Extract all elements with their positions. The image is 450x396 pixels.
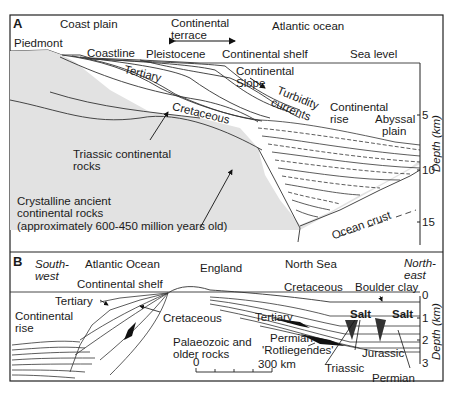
label-sea-level: Sea level — [350, 48, 397, 60]
label-cretaceous-right: Cretaceous — [284, 281, 343, 293]
label-boulder-clay: Boulder clay — [355, 281, 418, 293]
fault-arrow-glyph — [124, 322, 136, 340]
label-pleistocene: Pleistocene — [146, 48, 205, 60]
label-palaeozoic-2: older rocks — [173, 348, 229, 360]
label-continental-rise-b-2: rise — [15, 322, 34, 334]
depth-tick-15: 15 — [422, 216, 435, 228]
label-continental-slope-2: Slope — [236, 77, 265, 89]
depth-tick-10: 10 — [422, 164, 435, 176]
depth-tick-b-0: 0 — [422, 289, 428, 301]
label-northeast-2: east — [404, 269, 426, 281]
scale-bar-start: 0 — [193, 356, 199, 368]
depth-tick-5: 5 — [422, 109, 428, 121]
label-palaeozoic: Palaeozoic and — [173, 336, 252, 348]
label-abyssal-plain-2: plain — [382, 125, 406, 137]
label-continental-rise-b: Continental — [15, 310, 73, 322]
depth-axis-b-title: Depth (km) — [430, 303, 442, 360]
scale-bar-end: 300 km — [258, 358, 296, 370]
label-abyssal-plain: Abyssal — [375, 113, 415, 125]
label-jurassic: Jurassic — [362, 347, 404, 359]
label-permian-b: Permian — [372, 372, 415, 384]
label-continental-rise-2: rise — [330, 113, 349, 125]
label-continental-shelf-b: Continental shelf — [77, 278, 163, 290]
depth-tick-b-1: 1 — [422, 312, 428, 324]
label-tertiary-right: Tertiary — [255, 311, 293, 323]
label-northeast: North- — [404, 257, 436, 269]
label-atlantic-ocean-b: Atlantic Ocean — [85, 258, 160, 270]
label-triassic: Triassic continental — [73, 148, 171, 160]
label-continental-rise: Continental — [330, 101, 388, 113]
label-continental-shelf: Continental shelf — [222, 48, 308, 60]
depth-tick-b-2: 2 — [422, 334, 428, 346]
panel-b-letter: B — [13, 256, 22, 268]
label-permian-rotliegendes-2: 'Rotliegendes' — [262, 344, 334, 356]
label-tertiary-left: Tertiary — [55, 295, 93, 307]
label-permian-rotliegendes: Permian — [270, 332, 313, 344]
label-triassic-b: Triassic — [325, 362, 364, 374]
label-salt-2: Salt — [392, 308, 413, 320]
label-continental-terrace-2: terrace — [171, 29, 207, 41]
label-cretaceous-left: Cretaceous — [163, 312, 222, 324]
label-continental-slope: Continental — [236, 65, 294, 77]
label-north-sea: North Sea — [285, 258, 337, 270]
label-southwest-2: west — [35, 270, 59, 282]
label-atlantic-ocean: Atlantic ocean — [272, 20, 344, 32]
label-coastline: Coastline — [87, 47, 135, 59]
label-southwest: South- — [35, 258, 69, 270]
label-crystalline: Crystalline ancient — [17, 195, 111, 207]
label-salt-1: Salt — [350, 308, 371, 320]
label-crystalline-2: continental rocks — [17, 207, 103, 219]
label-crystalline-3: (approximately 600-450 million years old… — [17, 220, 227, 232]
label-continental-terrace: Continental — [171, 17, 229, 29]
label-triassic-2: rocks — [73, 160, 100, 172]
label-england: England — [200, 262, 242, 274]
depth-tick-b-3: 3 — [422, 357, 428, 369]
label-coast-plain: Coast plain — [60, 18, 118, 30]
label-piedmont: Piedmont — [14, 37, 63, 49]
panel-a-letter: A — [13, 18, 22, 30]
